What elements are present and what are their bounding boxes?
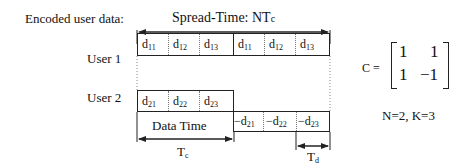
cell-neg-d21: −d21 bbox=[233, 110, 255, 132]
cell-d13-rep: d13 bbox=[295, 33, 314, 55]
cell-d13: d13 bbox=[199, 33, 218, 55]
user-1-label: User 1 bbox=[87, 51, 121, 67]
data-time-label: Data Time bbox=[152, 118, 207, 134]
matrix-left-bracket bbox=[391, 42, 397, 89]
cell-neg-d22: −d22 bbox=[264, 110, 287, 132]
matrix-r1c2: 1 bbox=[430, 42, 439, 62]
cell-d11-rep: d11 bbox=[233, 33, 252, 55]
cell-d12-rep: d12 bbox=[264, 33, 283, 55]
td-label: Td bbox=[307, 149, 319, 165]
matrix-r2c1: 1 bbox=[399, 65, 408, 85]
matrix-right-bracket bbox=[443, 42, 449, 89]
cell-d11: d11 bbox=[137, 33, 156, 55]
tc-label: Tc bbox=[177, 144, 189, 160]
matrix-r2c2: −1 bbox=[420, 65, 438, 85]
params-label: N=2, K=3 bbox=[382, 108, 435, 124]
user-2-label: User 2 bbox=[87, 90, 121, 106]
cell-d12: d12 bbox=[168, 33, 187, 55]
matrix-label: C = bbox=[362, 61, 380, 76]
cell-neg-d23: −d23 bbox=[296, 110, 319, 132]
cell-d23: d23 bbox=[199, 90, 218, 112]
cell-d21: d21 bbox=[137, 90, 156, 112]
matrix-r1c1: 1 bbox=[399, 42, 408, 62]
cell-d22: d22 bbox=[168, 90, 187, 112]
